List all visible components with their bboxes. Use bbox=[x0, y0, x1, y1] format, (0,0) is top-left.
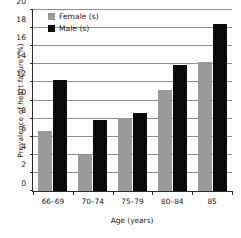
bars-layer bbox=[33, 10, 232, 191]
bar-group bbox=[192, 10, 232, 191]
y-axis-tick-label: 16 bbox=[16, 32, 26, 41]
legend-item: Female (s) bbox=[48, 11, 99, 21]
y-axis-tick-label: 2 bbox=[21, 160, 26, 169]
bar bbox=[213, 24, 227, 191]
plot-area: 02468101214161820 66–6970–7475–7980–8485 bbox=[32, 10, 232, 192]
bar bbox=[78, 155, 92, 191]
x-axis-tick bbox=[33, 191, 34, 195]
y-axis-tick-label: 0 bbox=[21, 178, 26, 187]
y-axis-tick-label: 4 bbox=[21, 142, 26, 151]
legend-item: Male (s) bbox=[48, 23, 99, 33]
bar bbox=[53, 80, 67, 191]
legend-swatch-icon bbox=[48, 25, 55, 32]
x-axis-tick-label: 66–69 bbox=[42, 197, 65, 206]
chart-legend: Female (s)Male (s) bbox=[48, 11, 99, 33]
x-axis-tick bbox=[152, 191, 153, 195]
y-axis-tick-label: 12 bbox=[16, 69, 26, 78]
x-axis-tick bbox=[113, 191, 114, 195]
x-axis-title: Age (years) bbox=[32, 216, 232, 225]
bar-group bbox=[73, 10, 113, 191]
x-axis-tick-label: 80–84 bbox=[161, 197, 184, 206]
bar-group bbox=[33, 10, 73, 191]
y-axis-tick-label: 8 bbox=[21, 105, 26, 114]
bar bbox=[133, 113, 147, 191]
legend-swatch-icon bbox=[48, 13, 55, 20]
x-axis-tick bbox=[192, 191, 193, 195]
bar-chart: Prevalence of heart failure (%) 02468101… bbox=[0, 0, 241, 238]
y-axis-title: Prevalence of heart failure (%) bbox=[16, 21, 25, 181]
y-axis-tick-label: 18 bbox=[16, 14, 26, 23]
bar bbox=[38, 131, 52, 191]
legend-label: Male (s) bbox=[59, 24, 89, 33]
bar-group bbox=[113, 10, 153, 191]
bar bbox=[173, 65, 187, 191]
x-axis-tick-label: 75–79 bbox=[121, 197, 144, 206]
bar bbox=[118, 118, 132, 191]
bar-group bbox=[152, 10, 192, 191]
x-axis-tick bbox=[232, 191, 233, 195]
y-axis-tick-label: 10 bbox=[16, 87, 26, 96]
y-axis-tick-label: 20 bbox=[16, 0, 26, 5]
y-axis-tick-label: 14 bbox=[16, 51, 26, 60]
bar bbox=[93, 120, 107, 191]
y-axis-tick-label: 6 bbox=[21, 123, 26, 132]
x-axis-tick-label: 85 bbox=[207, 197, 216, 206]
x-axis-tick-label: 70–74 bbox=[81, 197, 104, 206]
bar bbox=[158, 90, 172, 191]
bar bbox=[198, 62, 212, 191]
x-axis-tick bbox=[73, 191, 74, 195]
legend-label: Female (s) bbox=[59, 12, 99, 21]
